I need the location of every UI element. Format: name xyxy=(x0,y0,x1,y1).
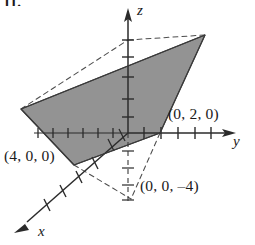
x-axis-arrowhead xyxy=(14,219,31,233)
problem-number: 11. xyxy=(3,0,21,6)
figure-container: 11. (4, 0, 0) (0, 2, 0) (0, 0, –4) x y z xyxy=(0,0,255,245)
label-y-intercept: (0, 2, 0) xyxy=(168,106,219,122)
coordinate-axes-figure xyxy=(0,0,255,245)
label-x-intercept: (4, 0, 0) xyxy=(4,148,55,164)
axis-label-z: z xyxy=(137,3,143,18)
axis-label-x: x xyxy=(38,224,45,239)
axis-label-y: y xyxy=(233,134,240,149)
label-z-intercept: (0, 0, –4) xyxy=(140,178,199,194)
dashed-edge-bottom-to-negz xyxy=(74,165,131,199)
negative-z-axis-ticks xyxy=(122,151,134,200)
